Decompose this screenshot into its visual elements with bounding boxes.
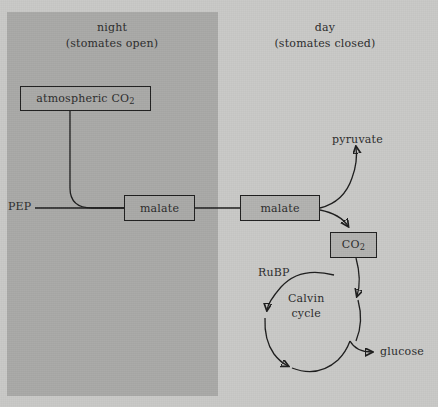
label-calvin-cycle-line2: cycle [291, 307, 321, 320]
figure-canvas: night (stomates open) day (stomates clos… [0, 0, 438, 407]
node-malate-day-label: malate [260, 202, 299, 215]
node-atmospheric-co2-label: atmospheric CO2 [36, 92, 134, 106]
calvin-cycle-arc-right [356, 300, 361, 341]
node-co2-released-label: CO2 [342, 238, 365, 252]
edge-atmospheric-co2-to-malate [70, 111, 124, 208]
edge-calvin-cycle-to-glucose [350, 341, 372, 352]
edge-malate-to-pyruvate [320, 147, 357, 208]
node-atmospheric-co2: atmospheric CO2 [20, 86, 151, 111]
subscript-2: 2 [360, 242, 365, 252]
label-glucose: glucose [380, 345, 424, 358]
node-malate-day: malate [240, 195, 320, 221]
node-co2-released: CO2 [330, 232, 377, 258]
label-pep: PEP [8, 200, 31, 213]
calvin-cycle-arc-bottom-left [265, 318, 288, 366]
label-pyruvate: pyruvate [332, 133, 383, 146]
label-rubp: RuBP [258, 266, 290, 279]
edge-co2-to-calvin-cycle [356, 258, 359, 296]
label-calvin-cycle: Calvin cycle [288, 291, 325, 321]
calvin-cycle-arc-bottom-right [292, 341, 350, 372]
node-malate-night: malate [124, 195, 195, 221]
node-malate-night-label: malate [140, 202, 179, 215]
label-calvin-cycle-line1: Calvin [288, 292, 325, 305]
edge-malate-to-co2 [320, 210, 348, 226]
subscript-2: 2 [129, 95, 134, 105]
pathway-arrows [0, 0, 438, 407]
